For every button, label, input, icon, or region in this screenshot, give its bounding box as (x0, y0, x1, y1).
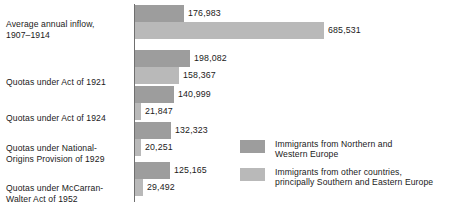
bar-value-label: 20,251 (145, 143, 173, 152)
legend-label-line: Immigrants from other countries, (275, 167, 433, 177)
bar-value-label: 125,165 (174, 166, 207, 175)
category-label-line: 1907–1914 (6, 30, 130, 41)
bar-value-label: 29,492 (147, 183, 175, 192)
legend-label: Immigrants from Northern andWestern Euro… (275, 139, 392, 160)
category-label: Quotas under Act of 1921 (6, 77, 130, 88)
legend-swatch-icon (240, 168, 265, 181)
category-label: Average annual inflow,1907–1914 (6, 19, 130, 40)
category-label-line: Quotas under Act of 1924 (6, 113, 130, 124)
legend-label-line: Immigrants from Northern and (275, 139, 392, 149)
bar-series2-group3 (135, 103, 141, 120)
category-label: Quotas under McCarran-Walter Act of 1952 (6, 183, 130, 204)
bar-series2-group2 (135, 67, 179, 84)
chart-legend: Immigrants from Northern andWestern Euro… (240, 139, 454, 199)
bar-series2-group4 (135, 139, 141, 156)
legend-label-line: Western Europe (275, 149, 392, 159)
category-label: Quotas under National-Origins Provision … (6, 143, 130, 164)
bar-series1-group1 (135, 5, 184, 22)
bar-value-label: 21,847 (145, 107, 173, 116)
category-label-line: Quotas under Act of 1921 (6, 77, 130, 88)
category-label-line: Average annual inflow, (6, 19, 130, 30)
category-label-line: Quotas under National- (6, 143, 130, 154)
immigration-quotas-bar-chart: Average annual inflow,1907–1914176,98368… (0, 0, 454, 206)
legend-label-line: principally Southern and Eastern Europe (275, 177, 433, 187)
legend-swatch-icon (240, 140, 265, 153)
bar-series1-group3 (135, 86, 174, 103)
bar-series2-group5 (135, 179, 143, 196)
category-label-line: Origins Provision of 1929 (6, 154, 130, 165)
bar-value-label: 198,082 (194, 54, 227, 63)
bar-value-label: 132,323 (175, 126, 208, 135)
category-label-line: Walter Act of 1952 (6, 194, 130, 205)
bar-series2-group1 (135, 22, 324, 39)
bar-series1-group5 (135, 162, 170, 179)
legend-label: Immigrants from other countries,principa… (275, 167, 433, 188)
bar-value-label: 685,531 (328, 26, 361, 35)
category-label: Quotas under Act of 1924 (6, 113, 130, 124)
bar-series1-group4 (135, 122, 171, 139)
bar-value-label: 140,999 (178, 90, 211, 99)
category-label-line: Quotas under McCarran- (6, 183, 130, 194)
bar-value-label: 158,367 (183, 71, 216, 80)
bar-value-label: 176,983 (188, 9, 221, 18)
legend-item-series1[interactable]: Immigrants from Northern andWestern Euro… (240, 139, 392, 160)
legend-item-series2[interactable]: Immigrants from other countries,principa… (240, 167, 433, 188)
bar-series1-group2 (135, 50, 190, 67)
